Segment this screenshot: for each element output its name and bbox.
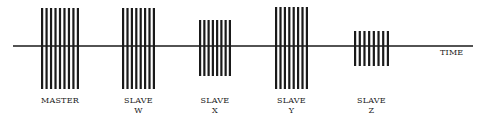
pulse-bar bbox=[382, 31, 384, 66]
pulse-bar bbox=[220, 20, 222, 76]
pulse-bar bbox=[368, 31, 370, 66]
group-label: SLAVE bbox=[124, 96, 153, 105]
pulse-group-slave-x: SLAVEX bbox=[199, 20, 231, 115]
pulse-bar bbox=[122, 8, 124, 89]
pulse-group-master: MASTER bbox=[41, 8, 80, 105]
pulse-bar bbox=[306, 7, 308, 89]
pulse-bar bbox=[363, 31, 365, 66]
pulse-bar bbox=[284, 7, 286, 89]
group-label: SLAVE bbox=[201, 96, 230, 105]
pulse-bar bbox=[153, 8, 155, 89]
pulse-bar bbox=[288, 7, 290, 89]
pulse-group-slave-y: SLAVEY bbox=[275, 7, 308, 115]
pulse-groups: MASTERSLAVEWSLAVEXSLAVEYSLAVEZ bbox=[41, 7, 389, 115]
group-sublabel: W bbox=[134, 106, 143, 115]
group-sublabel: Z bbox=[369, 106, 375, 115]
pulse-bar bbox=[354, 31, 356, 66]
pulse-bar bbox=[301, 7, 303, 89]
pulse-bar bbox=[377, 31, 379, 66]
pulse-bar bbox=[275, 7, 277, 89]
pulse-bar bbox=[59, 8, 61, 89]
pulse-bar bbox=[148, 8, 150, 89]
pulse-bar bbox=[203, 20, 205, 76]
pulse-bar bbox=[77, 8, 79, 89]
pulse-bar bbox=[208, 20, 210, 76]
pulse-group-slave-w: SLAVEW bbox=[122, 8, 155, 115]
group-label: SLAVE bbox=[357, 96, 386, 105]
pulse-bar bbox=[140, 8, 142, 89]
pulse-bar bbox=[279, 7, 281, 89]
group-sublabel: X bbox=[212, 106, 218, 115]
pulse-bar bbox=[212, 20, 214, 76]
pulse-bar bbox=[68, 8, 70, 89]
group-sublabel: Y bbox=[288, 106, 295, 115]
pulse-bar bbox=[135, 8, 137, 89]
pulse-bar bbox=[131, 8, 133, 89]
pulse-bar bbox=[229, 20, 231, 76]
pulse-bar bbox=[50, 8, 52, 89]
pulse-bar bbox=[359, 31, 361, 66]
pulse-bar bbox=[293, 7, 295, 89]
pulse-timing-diagram: TIME MASTERSLAVEWSLAVEXSLAVEYSLAVEZ bbox=[0, 0, 487, 115]
pulse-bar bbox=[387, 31, 389, 66]
pulse-group-slave-z: SLAVEZ bbox=[354, 31, 389, 115]
pulse-bar bbox=[72, 8, 74, 89]
pulse-bar bbox=[199, 20, 201, 76]
pulse-bar bbox=[41, 8, 43, 89]
pulse-bar bbox=[216, 20, 218, 76]
group-label: SLAVE bbox=[277, 96, 306, 105]
time-axis-label: TIME bbox=[440, 48, 463, 57]
pulse-bar bbox=[144, 8, 146, 89]
group-label: MASTER bbox=[41, 96, 80, 105]
pulse-bar bbox=[126, 8, 128, 89]
pulse-bar bbox=[45, 8, 47, 89]
pulse-bar bbox=[373, 31, 375, 66]
pulse-bar bbox=[225, 20, 227, 76]
pulse-bar bbox=[54, 8, 56, 89]
pulse-bar bbox=[63, 8, 65, 89]
pulse-bar bbox=[297, 7, 299, 89]
